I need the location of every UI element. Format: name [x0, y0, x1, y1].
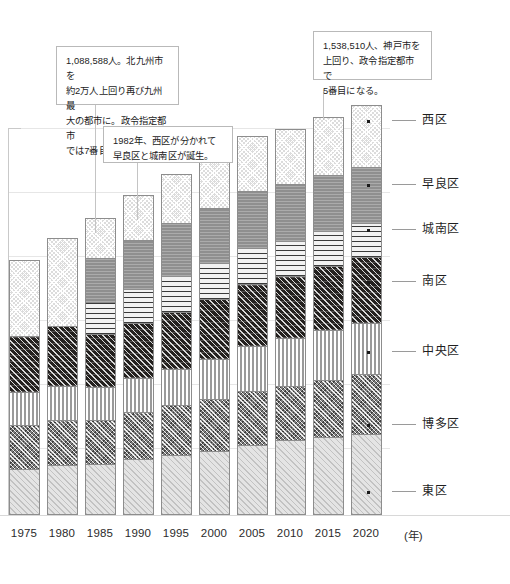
legend-leader-line — [392, 184, 416, 185]
bar-segment-higashi[interactable] — [10, 469, 39, 514]
bar-segment-higashi[interactable] — [276, 440, 305, 514]
chart-stage: 1975 1980 1985 1990 1995 2000 2005 2010 … — [0, 0, 510, 584]
legend-leader-line — [392, 120, 416, 121]
bar-segment-chuo[interactable] — [124, 378, 153, 412]
bar-segment-higashi[interactable] — [314, 437, 343, 514]
bar-segment-jonan[interactable] — [86, 302, 115, 334]
bar-segment-higashi[interactable] — [200, 451, 229, 514]
bar-segment-nishi[interactable] — [276, 130, 305, 184]
callout-line: 約2万人上回り再び九州最 — [66, 84, 170, 114]
bar-segment-minami[interactable] — [48, 326, 77, 386]
bar-segment-minami[interactable] — [124, 323, 153, 378]
bar-segment-jonan[interactable] — [124, 289, 153, 323]
callout-line: 5番目になる。 — [323, 84, 423, 99]
bar-segment-chuo[interactable] — [200, 359, 229, 399]
bar-segment-jonan[interactable] — [352, 223, 381, 257]
bar-segment-minami[interactable] — [276, 276, 305, 339]
legend-anchor-dot-chuo — [367, 351, 370, 354]
legend-anchor-dot-higashi — [367, 491, 370, 494]
bar-segment-sawara[interactable] — [238, 191, 267, 248]
legend-anchor-dot-sawara — [367, 184, 370, 187]
bar-segment-jonan[interactable] — [162, 276, 191, 311]
bar-segment-minami[interactable] — [10, 336, 39, 392]
bar-segment-sawara[interactable] — [162, 223, 191, 276]
bar-2020[interactable] — [351, 105, 382, 515]
bar-segment-sawara[interactable] — [276, 184, 305, 240]
bar-segment-hakata[interactable] — [200, 399, 229, 451]
bar-segment-higashi[interactable] — [86, 464, 115, 514]
bar-2005[interactable] — [237, 136, 268, 515]
bar-segment-minami[interactable] — [162, 312, 191, 369]
x-axis-label-2010: 2010 — [269, 527, 311, 539]
bar-segment-higashi[interactable] — [162, 455, 191, 514]
bar-segment-nishi[interactable] — [352, 106, 381, 167]
callout-note-1982: 1982年、西区が分かれて 早良区と城南区が誕生。 — [103, 126, 233, 163]
bar-segment-chuo[interactable] — [276, 338, 305, 385]
callout-leader-1982 — [137, 163, 138, 220]
bar-segment-nishi[interactable] — [162, 175, 191, 223]
bar-segment-hakata[interactable] — [162, 405, 191, 455]
bar-segment-minami[interactable] — [314, 266, 343, 330]
bar-segment-sawara[interactable] — [314, 175, 343, 231]
bar-segment-chuo[interactable] — [352, 323, 381, 375]
callout-line: 早良区と城南区が誕生。 — [113, 149, 224, 164]
bar-1985[interactable] — [85, 218, 116, 515]
bar-segment-hakata[interactable] — [48, 420, 77, 465]
bar-segment-chuo[interactable] — [48, 386, 77, 420]
bar-segment-jonan[interactable] — [238, 248, 267, 284]
bar-segment-chuo[interactable] — [314, 330, 343, 380]
bar-segment-nishi[interactable] — [238, 137, 267, 191]
y-axis-top-tick — [8, 128, 21, 129]
bar-segment-hakata[interactable] — [86, 420, 115, 464]
bar-segment-nishi[interactable] — [314, 118, 343, 175]
bar-segment-nishi[interactable] — [124, 196, 153, 240]
bar-segment-higashi[interactable] — [352, 434, 381, 514]
bar-segment-hakata[interactable] — [276, 386, 305, 441]
bar-segment-sawara[interactable] — [124, 240, 153, 289]
bar-segment-jonan[interactable] — [276, 241, 305, 276]
legend-leader-line — [392, 491, 416, 492]
bar-segment-nishi[interactable] — [10, 261, 39, 336]
legend-anchor-dot-nishi — [367, 120, 370, 123]
bar-segment-chuo[interactable] — [10, 392, 39, 425]
bar-segment-hakata[interactable] — [124, 412, 153, 459]
bar-segment-minami[interactable] — [352, 257, 381, 323]
bar-segment-higashi[interactable] — [124, 459, 153, 514]
bar-segment-nishi[interactable] — [48, 239, 77, 326]
bar-segment-jonan[interactable] — [200, 263, 229, 299]
bar-segment-higashi[interactable] — [48, 465, 77, 514]
bar-segment-chuo[interactable] — [238, 346, 267, 391]
x-axis-unit-label: (年) — [404, 527, 423, 543]
x-axis-label-2015: 2015 — [307, 527, 349, 539]
callout-line: 上回り、政令指定都市で — [323, 54, 423, 84]
bar-segment-hakata[interactable] — [314, 380, 343, 437]
bar-segment-minami[interactable] — [238, 284, 267, 346]
bar-segment-hakata[interactable] — [10, 425, 39, 469]
bar-segment-nishi[interactable] — [86, 219, 115, 258]
bar-2010[interactable] — [275, 129, 306, 515]
x-axis-baseline — [0, 515, 510, 516]
bar-1975[interactable] — [9, 260, 40, 515]
bar-segment-higashi[interactable] — [238, 445, 267, 514]
bar-segment-minami[interactable] — [86, 334, 115, 387]
bar-segment-sawara[interactable] — [200, 208, 229, 264]
bar-segment-sawara[interactable] — [86, 258, 115, 301]
bar-segment-jonan[interactable] — [314, 231, 343, 265]
bar-segment-chuo[interactable] — [162, 369, 191, 405]
x-axis-label-1980: 1980 — [41, 527, 83, 539]
legend-anchor-dot-jonan — [367, 229, 370, 232]
x-axis-label-2000: 2000 — [193, 527, 235, 539]
legend-leader-line — [392, 424, 416, 425]
bar-segment-sawara[interactable] — [352, 167, 381, 223]
callout-line: 1982年、西区が分かれて — [113, 134, 224, 149]
bar-segment-hakata[interactable] — [238, 391, 267, 445]
bar-segment-chuo[interactable] — [86, 387, 115, 420]
bar-2015[interactable] — [313, 117, 344, 515]
legend-anchor-dot-minami — [367, 281, 370, 284]
bar-1995[interactable] — [161, 174, 192, 515]
bar-1980[interactable] — [47, 238, 78, 515]
bar-segment-minami[interactable] — [200, 299, 229, 359]
legend-label-higashi: 東区 — [422, 484, 447, 498]
bar-1990[interactable] — [123, 195, 154, 515]
bar-2000[interactable] — [199, 155, 230, 515]
